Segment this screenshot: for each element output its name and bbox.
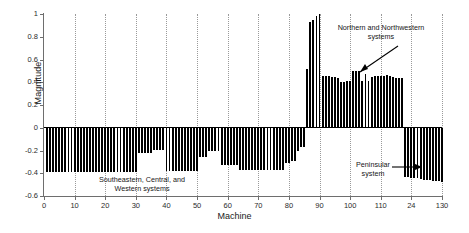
- bar: [58, 128, 60, 172]
- bar: [117, 128, 119, 172]
- bar: [138, 128, 140, 153]
- x-tick-label: 80: [274, 201, 304, 210]
- bar: [386, 75, 388, 127]
- y-tick-label: -0.6: [4, 192, 38, 200]
- x-tick-label: 90: [305, 201, 335, 210]
- bar: [175, 128, 177, 171]
- annotation-arrow-peninsular: [392, 158, 442, 178]
- bar: [214, 128, 216, 151]
- bar: [276, 128, 278, 170]
- bar: [77, 128, 79, 172]
- bar: [141, 128, 143, 153]
- bar: [273, 128, 275, 170]
- bar: [309, 22, 311, 128]
- bar: [196, 128, 198, 171]
- bar: [340, 82, 342, 128]
- bar: [184, 128, 186, 171]
- bar: [55, 128, 57, 172]
- bar: [113, 128, 115, 172]
- x-tick-label: 40: [151, 201, 181, 210]
- x-axis-label: Machine: [0, 211, 469, 221]
- bar: [236, 128, 238, 166]
- bar: [361, 81, 363, 128]
- bar: [285, 128, 287, 163]
- bar: [205, 128, 207, 158]
- bar: [178, 128, 180, 171]
- bar: [166, 128, 168, 171]
- bar: [230, 128, 232, 166]
- bar: [300, 128, 302, 147]
- bar: [325, 76, 327, 128]
- bar: [380, 76, 382, 128]
- bar: [248, 128, 250, 170]
- x-tick-label: 10: [60, 201, 90, 210]
- bar: [233, 128, 235, 166]
- bar: [239, 128, 241, 170]
- bar: [135, 128, 137, 172]
- bar: [218, 128, 220, 151]
- bar: [343, 82, 345, 128]
- bar: [288, 128, 290, 163]
- x-tick-label: 100: [335, 201, 365, 210]
- bar: [303, 128, 305, 147]
- x-tick-mark: [442, 196, 443, 200]
- bar: [123, 128, 125, 172]
- x-tick-label: 130: [427, 201, 457, 210]
- bar: [395, 78, 397, 128]
- bar: [334, 77, 336, 128]
- bar: [282, 128, 284, 170]
- bar: [98, 128, 100, 172]
- annotation-arrow-northern: [352, 42, 412, 82]
- bar: [80, 128, 82, 172]
- x-tick-mark: [258, 196, 259, 200]
- bar: [374, 76, 376, 128]
- x-tick-mark: [166, 196, 167, 200]
- x-tick-mark: [411, 196, 412, 200]
- bar: [49, 128, 51, 172]
- x-tick-mark: [289, 196, 290, 200]
- y-axis-label: Magnitude: [33, 23, 43, 143]
- bar: [279, 128, 281, 170]
- y-tick-label: -0.2: [4, 147, 38, 155]
- bar: [377, 76, 379, 128]
- bar: [398, 78, 400, 128]
- bar: [365, 74, 367, 127]
- bar: [129, 128, 131, 172]
- bar: [61, 128, 63, 172]
- x-tick-label: 60: [213, 201, 243, 210]
- bar: [322, 76, 324, 128]
- bar: [291, 128, 293, 161]
- bar: [64, 128, 66, 172]
- zero-baseline: [44, 127, 442, 128]
- bar: [199, 128, 201, 158]
- bar: [159, 128, 161, 150]
- bar: [401, 78, 403, 128]
- x-tick-label: 110: [366, 201, 396, 210]
- bar: [257, 128, 259, 170]
- bar: [95, 128, 97, 172]
- x-tick-mark: [197, 196, 198, 200]
- bar: [101, 128, 103, 172]
- bar: [297, 128, 299, 151]
- bar: [89, 128, 91, 172]
- bar: [263, 128, 265, 170]
- x-tick-label: 0: [29, 201, 59, 210]
- bar: [337, 78, 339, 128]
- x-tick-label: 50: [182, 201, 212, 210]
- bar: [162, 128, 164, 150]
- bar: [153, 128, 155, 150]
- bar: [389, 76, 391, 128]
- annotation-southeastern: Southeastern, Central, and Western syste…: [78, 176, 206, 193]
- bar: [126, 128, 128, 172]
- x-tick-mark: [381, 196, 382, 200]
- bar: [190, 128, 192, 171]
- bar: [346, 81, 348, 128]
- bar: [331, 77, 333, 128]
- y-tick-mark: [40, 151, 44, 152]
- bar: [46, 128, 48, 172]
- bar: [156, 128, 158, 150]
- bar: [267, 128, 269, 170]
- bar: [74, 128, 76, 172]
- bar: [260, 128, 262, 170]
- x-tick-label: 70: [243, 201, 273, 210]
